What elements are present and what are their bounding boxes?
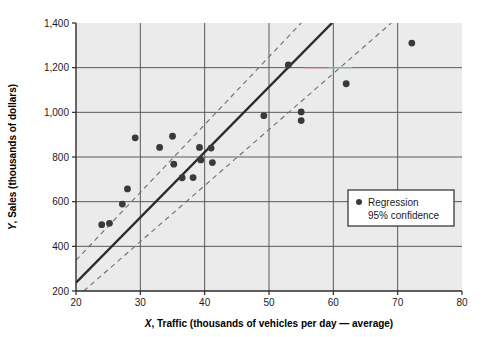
y-tick-label-200: 200: [52, 286, 69, 297]
data-point[interactable]: [132, 134, 139, 141]
data-point[interactable]: [208, 145, 215, 152]
data-point[interactable]: [285, 62, 292, 69]
data-point[interactable]: [190, 174, 197, 181]
y-axis-title-rest: , Sales (thousands of dollars): [7, 84, 18, 223]
data-point[interactable]: [298, 117, 305, 124]
x-tick-label-60: 60: [328, 297, 340, 308]
y-axis-title: Y, Sales (thousands of dollars): [7, 84, 18, 230]
scatter-plot: 2004006008001,0001,2001,4002030405060708…: [0, 0, 489, 337]
legend[interactable]: Regression95% confidence: [348, 190, 454, 226]
x-tick-label-40: 40: [199, 297, 211, 308]
y-tick-label-400: 400: [52, 241, 69, 252]
data-point[interactable]: [408, 40, 415, 47]
x-tick-label-30: 30: [135, 297, 147, 308]
y-tick-label-800: 800: [52, 152, 69, 163]
x-axis-title: X, Traffic (thousands of vehicles per da…: [144, 318, 393, 329]
x-tick-label-20: 20: [70, 297, 82, 308]
data-point[interactable]: [156, 144, 163, 151]
x-axis-title-rest: , Traffic (thousands of vehicles per day…: [151, 318, 393, 329]
y-tick-label-600: 600: [52, 196, 69, 207]
data-point[interactable]: [170, 161, 177, 168]
data-point[interactable]: [179, 174, 186, 181]
data-point[interactable]: [197, 157, 204, 164]
x-axis-ticks: 20304050607080: [70, 291, 468, 308]
data-point[interactable]: [260, 112, 267, 119]
chart-container: 2004006008001,0001,2001,4002030405060708…: [0, 0, 489, 337]
data-point[interactable]: [119, 201, 126, 208]
y-axis-ticks: 2004006008001,0001,2001,400: [44, 18, 76, 297]
legend-label-confidence: 95% confidence: [368, 210, 440, 221]
legend-label-regression: Regression: [368, 197, 419, 208]
data-point[interactable]: [196, 144, 203, 151]
legend-marker-dot: [356, 199, 362, 205]
data-point[interactable]: [106, 220, 113, 227]
y-tick-label-1200: 1,200: [44, 62, 69, 73]
data-point[interactable]: [124, 186, 131, 193]
y-tick-label-1400: 1,400: [44, 18, 69, 29]
x-tick-label-80: 80: [456, 297, 468, 308]
legend-box: [348, 190, 454, 226]
data-point[interactable]: [298, 108, 305, 115]
data-point[interactable]: [169, 133, 176, 140]
y-tick-label-1000: 1,000: [44, 107, 69, 118]
data-point[interactable]: [98, 221, 105, 228]
x-tick-label-70: 70: [392, 297, 404, 308]
data-point[interactable]: [343, 80, 350, 87]
x-tick-label-50: 50: [263, 297, 275, 308]
data-point[interactable]: [209, 159, 216, 166]
